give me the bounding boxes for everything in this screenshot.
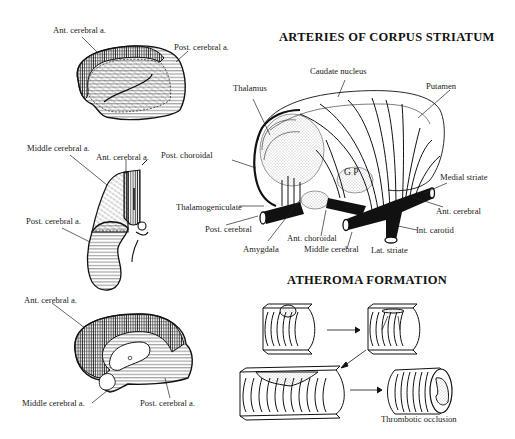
label-thalamus: Thalamus — [233, 84, 267, 93]
label-middle-cerebral: Middle cerebral — [304, 245, 359, 254]
label-int-carotid: Int. carotid — [416, 226, 454, 235]
label-medial-striate: Medial striate — [440, 173, 488, 182]
label-lateral-post-cerebral: Post. cerebral a. — [174, 43, 229, 52]
title-atheroma-formation: ATHEROMA FORMATION — [287, 273, 447, 288]
label-coronal-post-cerebral: Post. cerebral a. — [26, 217, 81, 226]
label-thalamogeniculate: Thalamogeniculate — [176, 203, 242, 212]
label-medial-ant-cerebral: Ant. cerebral a. — [24, 296, 77, 305]
lateral-hemisphere-drawing — [77, 37, 188, 120]
label-coronal-ant-cerebral: Ant. cerebral a. — [96, 153, 149, 162]
label-thrombotic-occlusion: Thrombotic occlusion — [381, 415, 457, 424]
corpus-striatum-drawing — [226, 80, 450, 249]
label-amygdala: Amygdala — [243, 245, 279, 254]
label-lateral-ant-cerebral: Ant. cerebral a. — [53, 26, 106, 35]
label-medial-post-cerebral: Post. cerebral a. — [140, 399, 195, 408]
label-coronal-middle-cerebral: Middle cerebral a. — [27, 144, 90, 153]
medial-hemisphere-drawing — [52, 303, 192, 403]
label-globus-pallidus: G P — [344, 168, 359, 178]
label-caudate-nucleus: Caudate nucleus — [310, 67, 367, 76]
atheroma-drawing — [240, 304, 452, 420]
label-ant-choroidal: Ant. choroidal — [287, 234, 337, 243]
label-post-choroidal: Post. choroidal — [161, 151, 213, 160]
label-lat-striate: Lat. striate — [371, 246, 408, 255]
label-medial-middle-cerebral: Middle cerebral a. — [22, 399, 85, 408]
title-arteries-corpus-striatum: ARTERIES OF CORPUS STRIATUM — [279, 30, 495, 45]
label-putamen: Putamen — [426, 82, 456, 91]
label-ant-cerebral: Ant. cerebral — [436, 207, 481, 216]
label-post-cerebral: Post. cerebral — [205, 225, 252, 234]
